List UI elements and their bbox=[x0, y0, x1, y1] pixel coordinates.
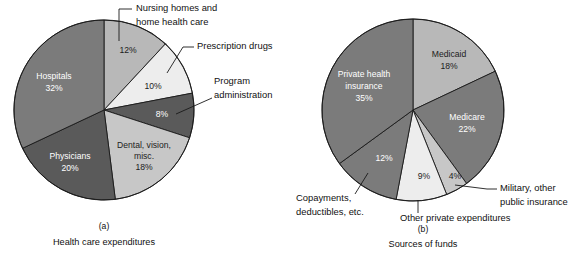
slice-value-program-administration: 8% bbox=[156, 109, 169, 119]
slice-value-hospitals: 32% bbox=[45, 83, 63, 93]
pie-chart-sources-of-funds: Medicaid 18% Medicare 22% Private health… bbox=[296, 19, 568, 249]
slice-value-copayments: 12% bbox=[375, 153, 393, 163]
panel-b-caption: Sources of funds bbox=[389, 239, 458, 249]
slice-value-dental: 18% bbox=[135, 162, 153, 172]
slice-label-physicians: Physicians bbox=[49, 151, 90, 161]
slice-value-private: 35% bbox=[355, 93, 373, 103]
callout-program-administration-line1: Program bbox=[214, 75, 250, 86]
slice-label-dental-line1: Dental, vision, bbox=[117, 140, 171, 150]
slice-value-other-private: 9% bbox=[418, 171, 431, 181]
slice-value-military-other-public: 4% bbox=[449, 171, 462, 181]
callout-prescription-drugs: Prescription drugs bbox=[197, 40, 273, 51]
slice-value-physicians: 20% bbox=[61, 163, 79, 173]
slice-value-medicare: 22% bbox=[458, 124, 476, 134]
callout-program-administration-line2: administration bbox=[214, 89, 272, 100]
slice-label-dental-line2: misc. bbox=[134, 151, 154, 161]
slice-label-private-line1: Private health bbox=[338, 69, 391, 79]
panel-a-caption: Health care expenditures bbox=[53, 237, 156, 247]
two-pie-chart-figure: 12% 10% 8% Dental, vision, misc. 18% Phy… bbox=[0, 0, 577, 257]
callout-military-line1: Military, other bbox=[500, 182, 556, 193]
callout-military-line2: public insurance bbox=[500, 196, 568, 207]
callout-nursing-homes-line1: Nursing homes and bbox=[136, 2, 217, 13]
panel-a-letter: (a) bbox=[99, 221, 110, 231]
slice-value-nursing-homes: 12% bbox=[119, 45, 137, 55]
callout-nursing-homes-line2: home health care bbox=[136, 16, 208, 27]
slice-label-hospitals: Hospitals bbox=[36, 71, 71, 81]
callout-other-private-expenditures: Other private expenditures bbox=[400, 212, 511, 223]
callout-copayments-line2: deductibles, etc. bbox=[296, 206, 364, 217]
pie-chart-health-care-expenditures: 12% 10% 8% Dental, vision, misc. 18% Phy… bbox=[14, 2, 273, 247]
callout-copayments-line1: Copayments, bbox=[296, 192, 351, 203]
slice-label-medicaid: Medicaid bbox=[432, 49, 467, 59]
slice-value-medicaid: 18% bbox=[440, 61, 458, 71]
slice-label-medicare: Medicare bbox=[449, 112, 485, 122]
slice-label-private-line2: insurance bbox=[345, 81, 382, 91]
slice-value-prescription-drugs: 10% bbox=[144, 81, 162, 91]
panel-b-letter: (b) bbox=[418, 224, 429, 234]
